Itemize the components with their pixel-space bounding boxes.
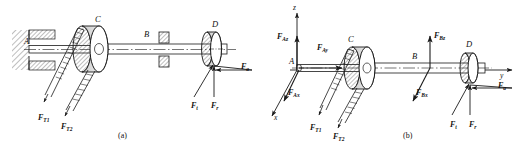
panel-a-point-d-label: D — [212, 20, 218, 29]
panel-b-force-ft1-label: FT1 — [310, 124, 321, 132]
panel-b-force-ft-label: Ft — [450, 121, 457, 129]
panel-a-point-a-label: A — [24, 37, 29, 46]
axis-z-label: z — [293, 4, 296, 12]
panel-b-force-fay-label: FAy — [317, 44, 328, 52]
panel-b-graphics — [272, 13, 512, 128]
panel-b-force-ft2-label: FT2 — [333, 133, 344, 141]
belt-pulley-c — [44, 26, 108, 116]
panel-a-force-fa-label: Fa — [241, 63, 249, 71]
gear-d-b — [460, 53, 478, 83]
panel-b-force-fbz-label: FBz — [434, 32, 445, 40]
panel-a-force-fr-label: Fr — [211, 102, 218, 110]
panel-a-force-ft-label: Ft — [191, 102, 198, 110]
panel-b-force-faz-label: FAz — [277, 33, 288, 41]
gear-d — [202, 32, 225, 66]
shaft-force-analysis-figure: A C B D FT1 FT2 Ft Fr Fa (a) z y x A C B… — [0, 0, 526, 153]
panel-b-caption: (b) — [403, 131, 412, 140]
panel-b-point-a-label: A — [289, 57, 294, 66]
panel-a-force-ft2-label: FT2 — [61, 123, 72, 131]
panel-b-force-fbx-label: FBx — [416, 89, 428, 97]
panel-a-point-b-label: B — [144, 30, 149, 39]
axis-y-label: y — [500, 72, 503, 80]
axis-x-label: x — [274, 114, 277, 122]
panel-b-force-fr-label: Fr — [469, 121, 476, 129]
panel-a-force-ft1-label: FT1 — [38, 114, 49, 122]
panel-b-point-d-label: D — [466, 40, 472, 49]
belt-pulley-c-b — [319, 47, 375, 128]
diagram-canvas — [0, 0, 526, 153]
panel-a-caption: (a) — [118, 131, 127, 140]
panel-b-force-fax-label: FAx — [288, 89, 300, 97]
panel-b-point-b-label: B — [412, 52, 417, 61]
panel-b-point-c-label: C — [348, 35, 354, 44]
panel-b-force-fa-label: Fa — [498, 82, 506, 90]
panel-a-point-c-label: C — [95, 15, 101, 24]
